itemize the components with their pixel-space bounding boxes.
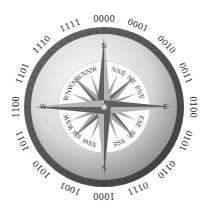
cardinal-label: N (101, 42, 107, 50)
binary-label: 0000 (93, 14, 115, 24)
binary-label: 1100 (11, 96, 21, 118)
compass-hub (101, 104, 107, 110)
compass-rose-diagram: 0000000100100011010001010110011110001001… (0, 0, 209, 215)
binary-label: 0100 (188, 96, 198, 118)
binary-label: 1000 (93, 191, 115, 201)
cardinal-label: W (40, 103, 47, 111)
cardinal-label: S (102, 164, 106, 172)
cardinal-label: E (163, 103, 168, 111)
